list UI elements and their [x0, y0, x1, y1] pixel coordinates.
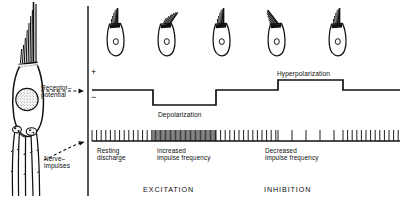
hair-cell-row [107, 8, 346, 56]
kinocilium-icon [34, 2, 37, 62]
hair-cell-icon [263, 10, 285, 56]
hair-cell-icon [329, 8, 346, 56]
polarity-minus-label: − [91, 93, 96, 102]
increased-impulse-frequency-label: Increasedimpulse frequency [157, 148, 211, 162]
nerve-impulses-label: Nerve–impulses [44, 156, 70, 170]
hair-bundle-icon [111, 8, 117, 25]
decreased-impulse-frequency-label: Decreasedimpulse frequency [265, 148, 319, 162]
excitation-label: EXCITATION [143, 186, 194, 194]
hair-cell-icon [213, 8, 230, 56]
hair-cell-icon [158, 9, 178, 56]
nerve-fibres-icon [11, 132, 40, 196]
inhibition-label: INHIBITION [264, 186, 311, 194]
hair-bundle-icon [333, 8, 339, 25]
figure-canvas: Receptor–potential Nerve–impulses + − De… [0, 0, 410, 216]
depolarization-label: Depolarization [158, 111, 202, 118]
hair-bundle-icon [217, 8, 223, 25]
diagram-svg [0, 0, 410, 216]
polarity-plus-label: + [91, 68, 96, 77]
hyperpolarization-label: Hyperpolarization [277, 70, 330, 77]
receptor-potential-trace [92, 80, 400, 105]
stereocilia-icon [21, 10, 33, 63]
resting-discharge-label: Restingdischarge [97, 148, 126, 162]
hair-cell-illustration [11, 2, 44, 196]
nerve-impulse-train [92, 130, 400, 141]
receptor-potential-label: Receptor–potential [41, 85, 71, 99]
hair-cell-icon [107, 8, 124, 56]
